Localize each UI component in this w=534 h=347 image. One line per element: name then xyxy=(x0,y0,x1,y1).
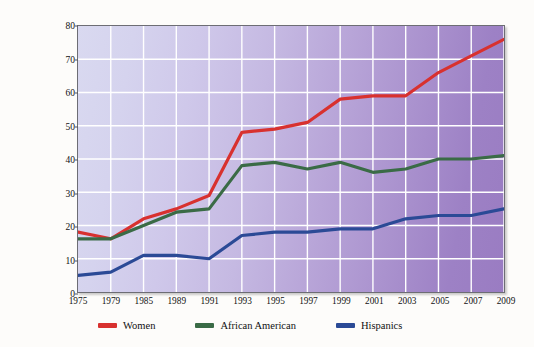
x-tick-label: 1993 xyxy=(233,296,252,306)
y-tick-mark xyxy=(75,193,78,194)
y-tick-label: 70 xyxy=(66,55,76,65)
x-tick-label: 2003 xyxy=(398,296,417,306)
x-tick-label: 1999 xyxy=(332,296,351,306)
x-tick-label: 1985 xyxy=(135,296,154,306)
legend-label: African American xyxy=(220,320,296,331)
legend-item-hispanics[interactable]: Hispanics xyxy=(336,320,402,331)
x-tick-label: 2007 xyxy=(464,296,483,306)
y-tick-mark xyxy=(75,126,78,127)
y-tick-label: 50 xyxy=(66,122,76,132)
y-tick-mark xyxy=(75,93,78,94)
legend-item-african-american[interactable]: African American xyxy=(195,320,296,331)
y-tick-label: 10 xyxy=(66,256,76,266)
x-tick-label: 1997 xyxy=(299,296,318,306)
legend-label: Hispanics xyxy=(361,320,402,331)
y-tick-mark xyxy=(75,26,78,27)
y-tick-mark xyxy=(75,59,78,60)
x-tick-label: 1979 xyxy=(102,296,121,306)
y-tick-label: 30 xyxy=(66,189,76,199)
chart-legend: WomenAfrican AmericanHispanics xyxy=(98,320,402,331)
x-tick-label: 1995 xyxy=(266,296,285,306)
x-tick-label: 1975 xyxy=(69,296,88,306)
x-tick-label: 1991 xyxy=(200,296,219,306)
y-tick-mark xyxy=(75,227,78,228)
x-tick-label: 2009 xyxy=(497,296,516,306)
x-tick-label: 2005 xyxy=(431,296,450,306)
y-tick-mark xyxy=(75,294,78,295)
plot-area: 01020304050607080 1975197919851989199119… xyxy=(77,25,505,293)
legend-swatch-icon xyxy=(195,323,214,328)
y-tick-label: 60 xyxy=(66,88,76,98)
y-tick-label: 20 xyxy=(66,222,76,232)
legend-swatch-icon xyxy=(98,323,117,328)
y-tick-mark xyxy=(75,260,78,261)
series-line-african-american xyxy=(78,156,504,239)
legend-swatch-icon xyxy=(336,323,355,328)
chart-figure: Number of Women, African Americans, and … xyxy=(0,0,534,347)
x-tick-label: 2001 xyxy=(365,296,384,306)
series-line-women xyxy=(78,39,504,238)
x-tick-label: 1989 xyxy=(167,296,186,306)
y-tick-mark xyxy=(75,160,78,161)
data-series-lines xyxy=(78,26,504,292)
y-axis-title: Number of Women, African Americans, and … xyxy=(14,0,38,46)
y-tick-label: 40 xyxy=(66,155,76,165)
legend-item-women[interactable]: Women xyxy=(98,320,155,331)
legend-label: Women xyxy=(123,320,155,331)
y-tick-label: 80 xyxy=(66,21,76,31)
